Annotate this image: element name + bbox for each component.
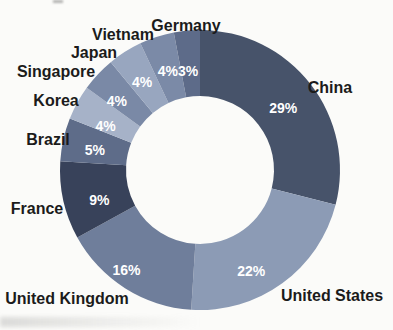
category-label-united-kingdom: United Kingdom	[5, 291, 129, 307]
percent-label-france: 9%	[89, 192, 110, 208]
percent-label-united-states: 22%	[237, 263, 266, 279]
doughnut-chart: 29%22%16%9%5%4%4%4%4%3%	[0, 0, 393, 330]
percent-label-singapore: 4%	[107, 93, 128, 109]
category-label-japan: Japan	[71, 45, 117, 61]
percent-label-china: 29%	[269, 100, 298, 116]
percent-label-japan: 4%	[132, 74, 153, 90]
percent-label-vietnam: 4%	[158, 63, 179, 79]
category-label-korea: Korea	[33, 93, 78, 109]
percent-label-united-kingdom: 16%	[112, 262, 141, 278]
category-label-germany: Germany	[151, 18, 220, 34]
slice-china	[200, 30, 340, 205]
chart-page: 29%22%16%9%5%4%4%4%4%3% China United Sta…	[0, 0, 393, 330]
category-label-united-states: United States	[281, 288, 383, 304]
percent-label-germany: 3%	[178, 63, 199, 79]
percent-label-korea: 4%	[95, 118, 116, 134]
category-label-china: China	[308, 80, 352, 96]
category-label-vietnam: Vietnam	[92, 27, 154, 43]
category-label-singapore: Singapore	[17, 64, 95, 80]
percent-label-brazil: 5%	[85, 142, 106, 158]
doughnut-slices	[60, 30, 340, 310]
category-label-france: France	[11, 201, 63, 217]
category-label-brazil: Brazil	[26, 132, 70, 148]
